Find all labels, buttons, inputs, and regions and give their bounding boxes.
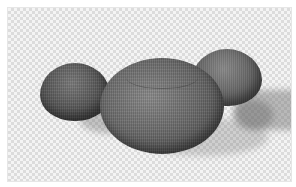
left-pouf <box>40 63 110 121</box>
center-pouf-seam <box>126 66 198 89</box>
photo-frame <box>7 7 292 182</box>
